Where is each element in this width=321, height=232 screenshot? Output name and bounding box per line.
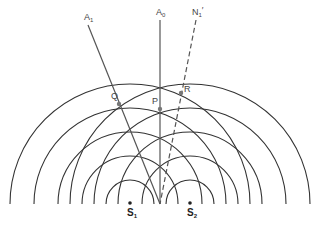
point-label-q: Q (111, 91, 118, 101)
point-r (179, 91, 183, 95)
antinodal-lines: A1A0N1′ (84, 5, 204, 204)
point-p (158, 107, 162, 111)
wave-sources: S1S2 (127, 201, 198, 219)
label-n1p: N1′ (192, 5, 204, 18)
source-label-s2: S2 (187, 207, 198, 219)
wavefront-arc-s1-5 (10, 84, 250, 204)
line-a1 (88, 25, 160, 204)
wavefront-arc-s1-3 (58, 132, 202, 204)
point-q (117, 102, 121, 106)
point-label-p: P (152, 96, 158, 106)
point-label-r: R (184, 84, 191, 94)
source-s2 (188, 201, 192, 205)
label-a1: A1 (84, 12, 94, 23)
interference-diagram: A1A0N1′ QPR S1S2 (0, 0, 321, 232)
source-s1 (128, 201, 132, 205)
source-label-s1: S1 (127, 207, 138, 219)
wavefront-arc-s2-3 (118, 132, 262, 204)
label-a0: A0 (156, 7, 166, 18)
wavefront-arc-s2-5 (70, 84, 310, 204)
line-n1p (160, 20, 196, 204)
